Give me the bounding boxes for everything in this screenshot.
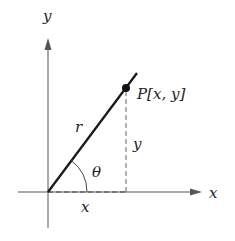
x-axis-arrow-icon bbox=[190, 189, 202, 196]
y-axis-arrow-icon bbox=[45, 38, 52, 50]
radius-label: r bbox=[75, 118, 83, 136]
angle-label: θ bbox=[92, 163, 101, 181]
theta-arc bbox=[71, 161, 87, 192]
vertical-leg-label: y bbox=[132, 135, 142, 153]
polar-coordinates-diagram: y x P[x, y] r y θ x bbox=[0, 0, 235, 241]
point-label: P[x, y] bbox=[136, 85, 185, 103]
y-axis-label: y bbox=[42, 7, 52, 25]
x-axis-label: x bbox=[209, 184, 218, 202]
horizontal-leg-label: x bbox=[81, 198, 90, 216]
point-p bbox=[122, 84, 130, 92]
